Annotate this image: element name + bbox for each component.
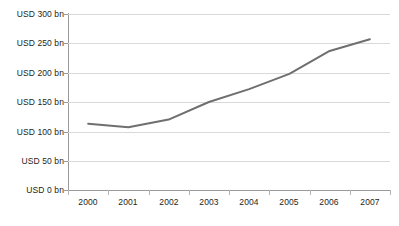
x-axis-tick-mark: [189, 190, 190, 195]
y-axis-tick-label-100: USD 100 bn: [0, 128, 64, 137]
y-axis-labels: USD 300 bn USD 250 bn USD 200 bn USD 150…: [0, 0, 64, 226]
x-axis-tick-mark: [68, 190, 69, 195]
x-axis-tick-mark: [390, 190, 391, 195]
x-axis-labels: 2000 2001 2002 2003 2004 2005 2006 2007: [68, 197, 390, 217]
x-axis-tick-label-2003: 2003: [199, 197, 218, 207]
x-axis-tick-label-2005: 2005: [279, 197, 298, 207]
x-axis-tick-mark: [229, 190, 230, 195]
plot-area: [68, 14, 390, 190]
y-axis-tick-label-200: USD 200 bn: [0, 69, 64, 78]
y-axis-tick-label-150: USD 150 bn: [0, 98, 64, 107]
x-axis-tick-mark: [310, 190, 311, 195]
x-axis-tick-label-2002: 2002: [159, 197, 178, 207]
series-line: [68, 14, 390, 190]
y-axis-tick-label-0: USD 0 bn: [0, 186, 64, 195]
y-axis-tick-label-50: USD 50 bn: [0, 157, 64, 166]
line-chart: USD 300 bn USD 250 bn USD 200 bn USD 150…: [0, 0, 399, 226]
y-axis-tick-label-250: USD 250 bn: [0, 39, 64, 48]
x-axis-tick-mark: [350, 190, 351, 195]
x-axis-tick-label-2000: 2000: [78, 197, 97, 207]
x-axis-tick-label-2006: 2006: [319, 197, 338, 207]
x-axis-tick-label-2001: 2001: [118, 197, 137, 207]
x-axis-tick-mark: [149, 190, 150, 195]
x-axis-tick-mark: [108, 190, 109, 195]
x-axis-tick-mark: [269, 190, 270, 195]
y-axis-tick-label-300: USD 300 bn: [0, 10, 64, 19]
x-axis-tick-label-2007: 2007: [360, 197, 379, 207]
x-axis-tick-label-2004: 2004: [239, 197, 258, 207]
